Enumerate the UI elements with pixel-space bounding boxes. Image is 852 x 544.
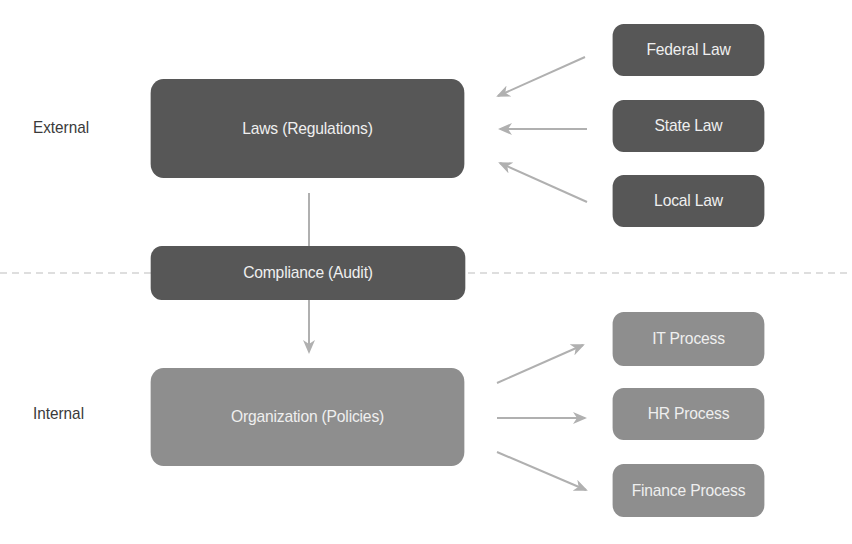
organization-node-label: Organization (Policies) <box>231 407 384 427</box>
compliance-node: Compliance (Audit) <box>151 246 466 300</box>
finance-process-label: Finance Process <box>632 481 746 501</box>
arrow-local-to-laws <box>500 163 587 202</box>
federal-law-label: Federal Law <box>646 40 730 60</box>
finance-process-node: Finance Process <box>613 464 765 517</box>
hr-process-label: HR Process <box>648 404 730 424</box>
local-law-label: Local Law <box>654 191 723 211</box>
state-law-node: State Law <box>613 100 765 152</box>
internal-zone-label: Internal <box>33 404 84 424</box>
arrow-federal-to-laws <box>498 57 585 96</box>
federal-law-node: Federal Law <box>613 24 765 76</box>
arrow-org-to-it <box>497 345 583 383</box>
laws-node-label: Laws (Regulations) <box>242 119 373 139</box>
state-law-label: State Law <box>655 116 723 136</box>
compliance-node-label: Compliance (Audit) <box>243 263 373 283</box>
hr-process-node: HR Process <box>613 388 765 440</box>
diagram-canvas: External Internal Laws (Regulations) Com… <box>0 0 852 544</box>
local-law-node: Local Law <box>613 175 765 227</box>
it-process-node: IT Process <box>613 312 765 366</box>
organization-node: Organization (Policies) <box>151 368 465 466</box>
it-process-label: IT Process <box>652 329 725 349</box>
external-zone-label: External <box>33 118 89 138</box>
laws-node: Laws (Regulations) <box>151 79 465 178</box>
arrow-org-to-finance <box>497 452 586 490</box>
